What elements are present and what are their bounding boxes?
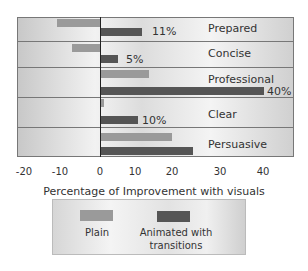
x-tick: 40 [257,166,270,177]
value-label: 5% [126,53,143,66]
category-label: Professional [208,73,274,86]
legend-label-plain: Plain [67,226,127,239]
bar-prepared-animated [100,28,142,36]
x-tick: -10 [52,166,68,177]
bar-prepared-plain [57,19,100,27]
category-label: Prepared [208,22,257,35]
legend-label-animated-line1: Animated with [131,226,221,239]
x-tick: 30 [214,166,227,177]
legend-swatch-animated [157,211,190,222]
bar-clear-animated [100,116,138,124]
x-tick: 0 [97,166,103,177]
value-label: 11% [152,25,176,38]
bar-concise-plain [72,44,100,52]
legend: Plain Animated with transitions [52,199,246,255]
bar-persuasive-plain [100,133,172,141]
bar-persuasive-animated [100,147,193,155]
legend-label-animated: Animated with transitions [131,226,221,252]
value-label: 40% [267,85,291,98]
legend-swatch-plain [80,210,113,221]
x-tick: 10 [129,166,142,177]
zero-axis-line [100,17,101,157]
bar-professional-plain [100,70,149,78]
category-label: Concise [208,47,251,60]
row-concise [18,42,293,68]
bar-concise-animated [100,55,118,63]
x-axis-label: Percentage of Improvement with visuals [0,185,308,198]
legend-label-animated-line2: transitions [131,239,221,252]
category-label: Clear [208,108,237,121]
bar-professional-animated [100,87,264,95]
value-label: 10% [142,114,166,127]
x-tick: 20 [166,166,179,177]
x-tick: -20 [16,166,32,177]
category-label: Persuasive [208,138,267,151]
